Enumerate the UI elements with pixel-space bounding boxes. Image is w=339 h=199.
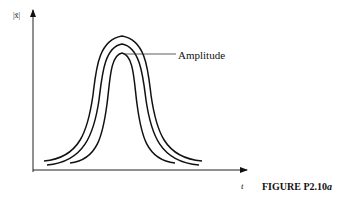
x-axis-label: t — [241, 182, 244, 191]
figure-caption: FIGURE P2.10a — [262, 182, 332, 192]
middle-curve — [47, 44, 199, 165]
figure-caption-suffix: a — [327, 181, 332, 192]
diagram-canvas — [0, 0, 339, 199]
figure-caption-prefix: FIGURE P2.10 — [262, 181, 327, 192]
inner-curve — [70, 53, 175, 163]
y-axis-label: |x̄| — [13, 12, 20, 20]
amplitude-label: Amplitude — [178, 50, 225, 61]
